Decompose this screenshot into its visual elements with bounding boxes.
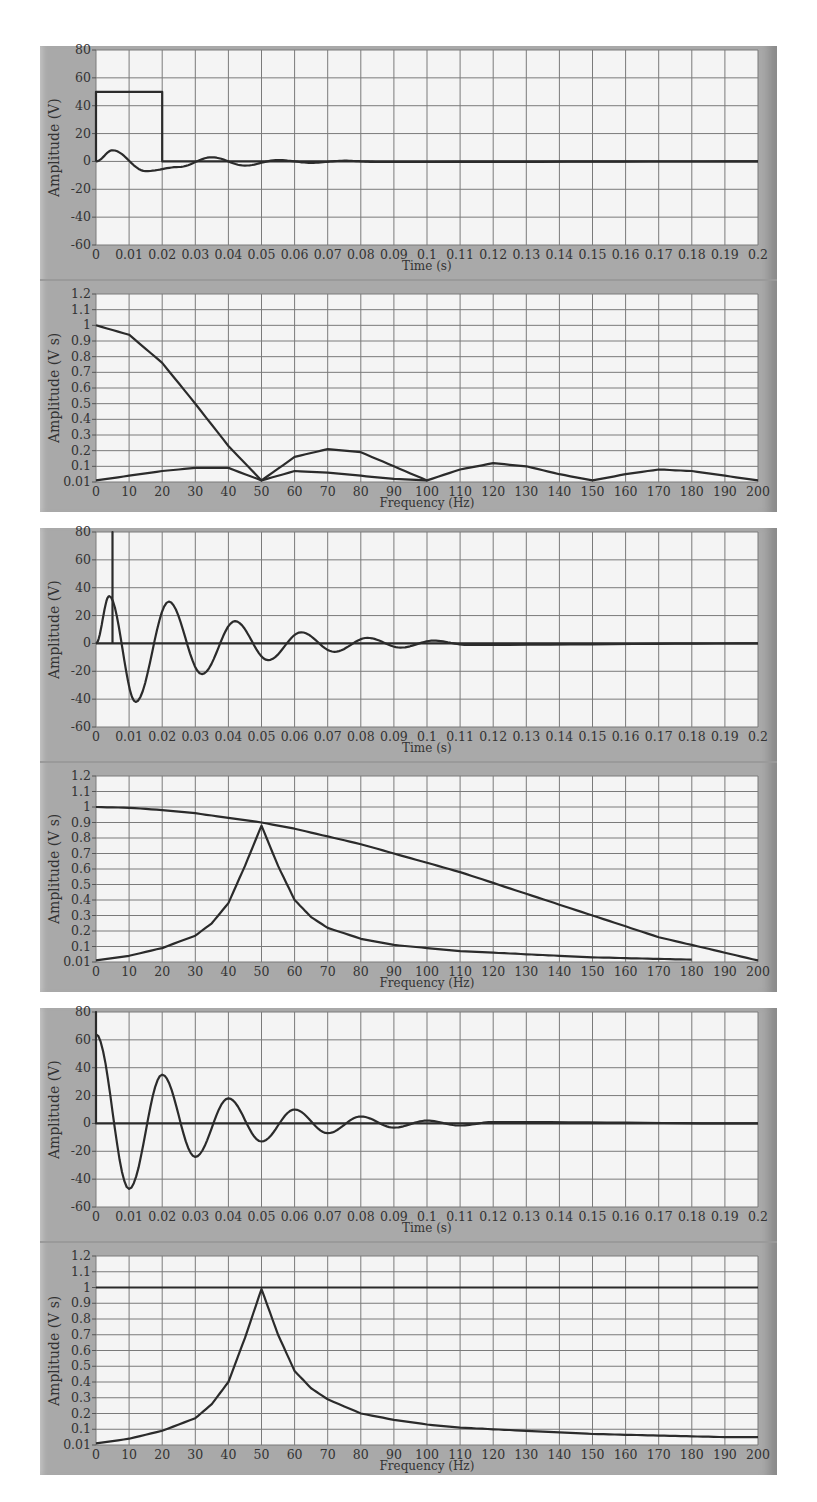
y-tick-label: 0.3 [71, 427, 91, 442]
plot-svg: 0102030405060708090100110120130140150160… [40, 764, 777, 992]
y-tick-label: 0.3 [71, 908, 91, 923]
x-tick-label: 0.17 [645, 729, 673, 744]
x-tick-label: 170 [647, 964, 671, 979]
y-tick-label: 1.2 [71, 768, 91, 783]
y-tick-label: 0.01 [63, 954, 91, 969]
x-tick-label: 0.07 [314, 1209, 342, 1224]
x-tick-label: 0.12 [479, 729, 507, 744]
x-tick-label: 150 [581, 1447, 605, 1462]
y-tick-label: 0.3 [71, 1390, 91, 1405]
x-tick-label: 50 [254, 484, 270, 499]
x-tick-label: 130 [514, 484, 538, 499]
y-tick-label: 40 [75, 580, 91, 595]
x-tick-label: 10 [121, 484, 137, 499]
x-tick-label: 180 [680, 484, 704, 499]
x-tick-label: 0.04 [214, 729, 242, 744]
y-tick-label: 80 [75, 42, 91, 57]
y-tick-label: -40 [71, 1171, 91, 1186]
x-tick-label: 160 [614, 964, 638, 979]
x-tick-label: 0.04 [214, 247, 242, 262]
x-tick-label: 70 [320, 1447, 336, 1462]
figure-panel-2: 00.010.020.030.040.050.060.070.080.090.1… [40, 528, 777, 992]
y-tick-label: 1.1 [71, 1264, 91, 1279]
x-tick-label: 0.08 [347, 247, 375, 262]
x-tick-label: 150 [581, 484, 605, 499]
x-tick-label: 10 [121, 1447, 137, 1462]
x-tick-label: 0 [92, 729, 100, 744]
x-tick-label: 0.13 [512, 729, 540, 744]
x-tick-label: 50 [254, 964, 270, 979]
x-tick-label: 0.05 [248, 1209, 276, 1224]
x-tick-label: 0.07 [314, 729, 342, 744]
figure-panel-1: 00.010.020.030.040.050.060.070.080.090.1… [40, 46, 777, 512]
x-tick-label: 20 [154, 484, 170, 499]
y-tick-label: 0.5 [71, 396, 91, 411]
x-tick-label: 0.01 [115, 1209, 143, 1224]
x-tick-label: 0.06 [281, 247, 309, 262]
x-tick-label: 190 [713, 484, 737, 499]
x-tick-label: 0.05 [248, 247, 276, 262]
x-tick-label: 60 [287, 484, 303, 499]
x-tick-label: 80 [353, 964, 369, 979]
panel-separator [40, 761, 777, 763]
spectrum-chart-1: 0102030405060708090100110120130140150160… [40, 282, 777, 512]
x-tick-label: 170 [647, 484, 671, 499]
x-tick-label: 0.17 [645, 1209, 673, 1224]
x-tick-label: 0.06 [281, 729, 309, 744]
y-tick-label: 0.9 [71, 815, 91, 830]
y-tick-label: 60 [75, 1032, 91, 1047]
x-tick-label: 120 [481, 1447, 505, 1462]
x-tick-label: 0.15 [579, 1209, 607, 1224]
y-tick-label: -60 [71, 237, 91, 252]
y-tick-label: -60 [71, 1199, 91, 1214]
y-tick-label: 20 [75, 608, 91, 623]
y-tick-label: 80 [75, 1004, 91, 1019]
y-tick-label: 0.4 [71, 411, 91, 426]
plot-svg: 00.010.020.030.040.050.060.070.080.090.1… [40, 46, 777, 278]
y-tick-label: 0.4 [71, 1374, 91, 1389]
y-tick-label: 60 [75, 70, 91, 85]
y-tick-label: -40 [71, 691, 91, 706]
x-tick-label: 0.18 [678, 729, 706, 744]
x-tick-label: 0.07 [314, 247, 342, 262]
x-tick-label: 0.06 [281, 1209, 309, 1224]
y-tick-label: 0.6 [71, 380, 91, 395]
x-tick-label: 0.12 [479, 1209, 507, 1224]
spectrum-chart-3: 0102030405060708090100110120130140150160… [40, 1244, 777, 1475]
y-tick-label: 0.01 [63, 1437, 91, 1452]
y-tick-label: 0.5 [71, 1358, 91, 1373]
x-tick-label: 140 [547, 1447, 571, 1462]
x-tick-label: 20 [154, 1447, 170, 1462]
x-tick-label: 0.15 [579, 247, 607, 262]
x-axis-title: Frequency (Hz) [380, 496, 475, 510]
y-axis-title: Amplitude (V s) [46, 1295, 62, 1405]
plot-svg: 0102030405060708090100110120130140150160… [40, 1244, 777, 1475]
y-tick-label: 0.8 [71, 1311, 91, 1326]
x-tick-label: 200 [746, 964, 770, 979]
x-tick-label: 130 [514, 964, 538, 979]
x-tick-label: 190 [713, 964, 737, 979]
x-tick-label: 0.19 [711, 1209, 739, 1224]
x-tick-label: 0.04 [214, 1209, 242, 1224]
time-chart-3: 00.010.020.030.040.050.060.070.080.090.1… [40, 1008, 777, 1240]
y-axis-title: Amplitude (V s) [46, 333, 62, 443]
plot-svg: 0102030405060708090100110120130140150160… [40, 282, 777, 512]
x-tick-label: 60 [287, 964, 303, 979]
x-tick-label: 0.2 [748, 1209, 768, 1224]
x-tick-label: 40 [220, 964, 236, 979]
y-tick-label: -20 [71, 181, 91, 196]
y-tick-label: 0.1 [71, 458, 91, 473]
y-tick-label: 0 [83, 635, 91, 650]
y-tick-label: 0.8 [71, 830, 91, 845]
x-tick-label: 0.16 [612, 1209, 640, 1224]
x-tick-label: 180 [680, 964, 704, 979]
x-tick-label: 0 [92, 247, 100, 262]
y-tick-label: 1 [83, 799, 91, 814]
x-tick-label: 200 [746, 1447, 770, 1462]
x-tick-label: 160 [614, 1447, 638, 1462]
x-tick-label: 70 [320, 964, 336, 979]
x-tick-label: 190 [713, 1447, 737, 1462]
y-tick-label: 0.2 [71, 923, 91, 938]
x-tick-label: 0.16 [612, 729, 640, 744]
y-tick-label: 0.4 [71, 892, 91, 907]
